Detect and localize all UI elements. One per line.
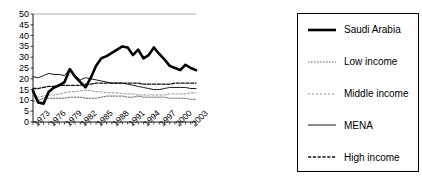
- chart-figure: 05101520253035404550 1973197619791982198…: [0, 0, 422, 185]
- legend-item-high-income[interactable]: High income: [298, 148, 420, 166]
- y-axis-tick-label: 35: [19, 42, 29, 51]
- series-lines: [33, 14, 196, 122]
- series-line-middle-income: [33, 91, 196, 99]
- series-line-saudi-arabia: [33, 46, 196, 103]
- legend-label: Low income: [344, 56, 397, 67]
- legend-item-low-income[interactable]: Low income: [298, 53, 420, 71]
- legend-item-mena[interactable]: MENA: [298, 116, 420, 134]
- y-axis-tick-label: 45: [19, 20, 29, 29]
- x-axis-tick-labels: 1973197619791982198519881991199419972000…: [33, 122, 203, 182]
- legend-swatch-thick-solid: [307, 24, 337, 36]
- legend-swatch-thin-solid: [307, 119, 337, 131]
- legend-item-saudi-arabia[interactable]: Saudi Arabia: [298, 21, 420, 39]
- legend-label: High income: [344, 152, 400, 163]
- legend-item-middle-income[interactable]: Middle income: [298, 85, 420, 103]
- y-axis-tick-label: 40: [19, 31, 29, 40]
- y-axis-tick-labels: 05101520253035404550: [0, 14, 29, 122]
- plot-frame: [33, 14, 196, 122]
- legend-swatch-fine-dotted: [307, 56, 337, 68]
- y-axis-tick-label: 25: [19, 64, 29, 73]
- y-axis-tick-label: 5: [24, 107, 29, 116]
- y-axis-tick-label: 20: [19, 74, 29, 83]
- legend-swatch-light-dotted: [307, 88, 337, 100]
- legend-swatch-dashed: [307, 151, 337, 163]
- y-axis-tick-label: 30: [19, 53, 29, 62]
- legend-label: Saudi Arabia: [344, 24, 401, 35]
- series-line-low-income: [33, 96, 196, 101]
- y-axis-tick-label: 50: [19, 10, 29, 19]
- chart-plot-area: 05101520253035404550 1973197619791982198…: [0, 0, 290, 185]
- y-axis-tick-label: 10: [19, 96, 29, 105]
- chart-legend: Saudi ArabiaLow incomeMiddle incomeMENAH…: [297, 13, 419, 172]
- y-axis-tick-label: 0: [24, 118, 29, 127]
- legend-label: MENA: [344, 120, 373, 131]
- y-axis-tick-label: 15: [19, 85, 29, 94]
- legend-label: Middle income: [344, 88, 408, 99]
